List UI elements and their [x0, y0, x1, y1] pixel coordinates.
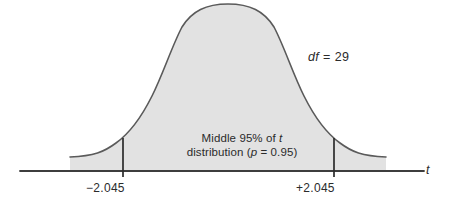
df-symbol: df: [308, 50, 319, 64]
df-annotation: df = 29: [308, 50, 349, 64]
df-relation: =: [323, 50, 331, 64]
center-annotation-line1: Middle 95% of t: [181, 131, 303, 145]
center-annotation-line2: distribution (p = 0.95): [181, 145, 303, 159]
t-distribution-figure: [0, 0, 450, 216]
center-line2-prefix: distribution (: [187, 146, 251, 158]
x-axis-label: t: [426, 163, 429, 177]
center-line2-suffix: = 0.95): [257, 146, 297, 158]
center-annotation: Middle 95% of t distribution (p = 0.95): [181, 131, 303, 159]
center-line1-prefix: Middle 95% of: [202, 132, 279, 144]
tick-label-positive-critical: +2.045: [296, 181, 335, 195]
t-symbol: t: [279, 132, 282, 144]
tick-label-negative-critical: −2.045: [86, 181, 125, 195]
df-value: 29: [335, 50, 350, 64]
